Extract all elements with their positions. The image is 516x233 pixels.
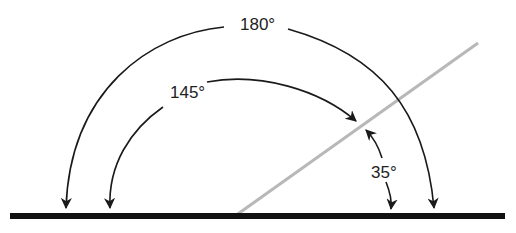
arc-180-right [288,29,434,208]
label-35: 35° [371,163,397,182]
label-180: 180° [240,15,275,34]
angle-diagram: 180° 145° 35° [0,0,516,233]
angled-ray [235,43,478,216]
arc-35-top [366,130,382,158]
arc-145-left [110,107,163,208]
arc-180-left [66,27,224,208]
arc-35-bottom [386,182,391,209]
label-145: 145° [170,83,205,102]
arc-145-right [207,79,356,121]
